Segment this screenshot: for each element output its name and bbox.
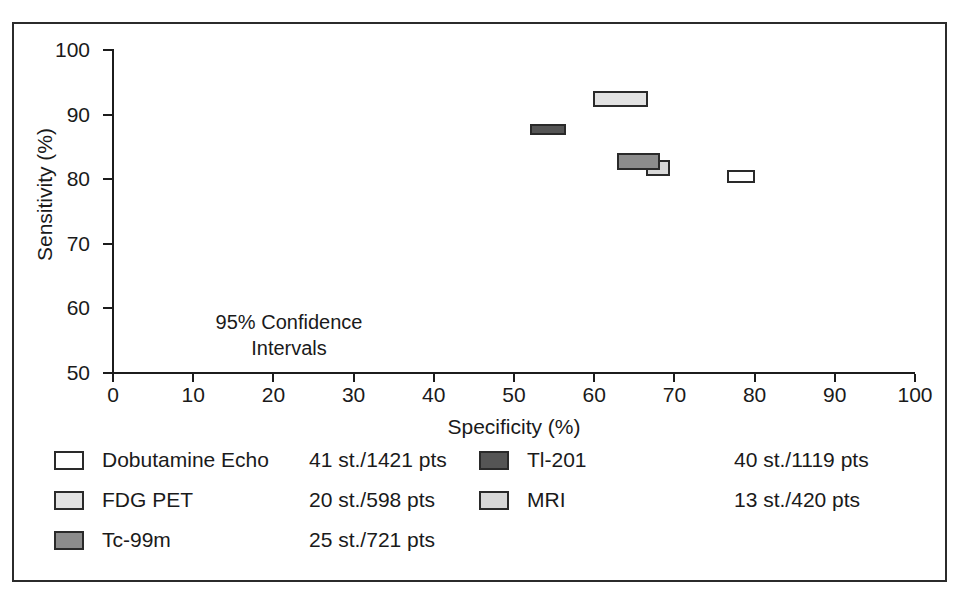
annotation-line-1: 95% Confidence	[174, 309, 404, 335]
x-tick-80	[754, 374, 756, 382]
legend-swatch-icon	[54, 451, 84, 470]
legend-stats: 25 st./721 pts	[309, 526, 435, 554]
x-tick-10	[192, 374, 194, 382]
annotation-line-2: Intervals	[174, 335, 404, 361]
legend-label: FDG PET	[102, 486, 193, 514]
y-tick-80	[103, 178, 112, 180]
x-tick-90	[834, 374, 836, 382]
y-tick-70	[103, 243, 112, 245]
x-tick-label-90: 90	[805, 384, 865, 405]
x-axis-title: Specificity (%)	[264, 416, 764, 437]
y-tick-label-100: 100	[44, 39, 90, 60]
ci-box-dobutamine-echo	[727, 170, 754, 183]
y-axis-title: Sensitivity (%)	[34, 70, 55, 320]
x-tick-100	[914, 374, 916, 382]
x-tick-label-70: 70	[644, 384, 704, 405]
x-tick-label-20: 20	[243, 384, 303, 405]
legend-swatch-icon	[54, 531, 84, 550]
x-tick-50	[513, 374, 515, 382]
x-tick-30	[353, 374, 355, 382]
ci-box-tc-99m	[617, 153, 660, 170]
legend-swatch-icon	[479, 491, 509, 510]
y-tick-60	[103, 307, 112, 309]
confidence-interval-annotation: 95% Confidence Intervals	[174, 309, 404, 361]
ci-box-fdg-pet	[593, 91, 648, 107]
x-tick-0	[112, 374, 114, 382]
legend-stats: 40 st./1119 pts	[734, 446, 869, 474]
legend-label: Dobutamine Echo	[102, 446, 269, 474]
x-tick-label-50: 50	[484, 384, 544, 405]
legend-label: Tc-99m	[102, 526, 171, 554]
y-tick-100	[103, 49, 112, 51]
figure-frame: 5060708090100 0102030405060708090100 Sen…	[12, 22, 947, 582]
y-tick-90	[103, 114, 112, 116]
legend-label: MRI	[527, 486, 566, 514]
x-tick-label-0: 0	[83, 384, 143, 405]
x-tick-20	[272, 374, 274, 382]
x-tick-label-10: 10	[163, 384, 223, 405]
legend-label: Tl-201	[527, 446, 587, 474]
ci-box-tl-201	[530, 124, 566, 134]
y-tick-label-50: 50	[44, 362, 90, 383]
y-axis-line	[112, 49, 114, 374]
legend-swatch-icon	[479, 451, 509, 470]
x-tick-60	[593, 374, 595, 382]
x-tick-label-60: 60	[564, 384, 624, 405]
y-tick-50	[103, 372, 112, 374]
legend: Dobutamine Echo41 st./1421 ptsFDG PET20 …	[14, 442, 949, 582]
legend-stats: 13 st./420 pts	[734, 486, 860, 514]
x-tick-label-100: 100	[885, 384, 945, 405]
x-tick-label-80: 80	[725, 384, 785, 405]
legend-stats: 20 st./598 pts	[309, 486, 435, 514]
x-tick-70	[673, 374, 675, 382]
x-tick-label-40: 40	[404, 384, 464, 405]
plot-area: 5060708090100 0102030405060708090100 Sen…	[14, 24, 949, 404]
legend-swatch-icon	[54, 491, 84, 510]
x-tick-label-30: 30	[324, 384, 384, 405]
legend-stats: 41 st./1421 pts	[309, 446, 447, 474]
x-tick-40	[433, 374, 435, 382]
